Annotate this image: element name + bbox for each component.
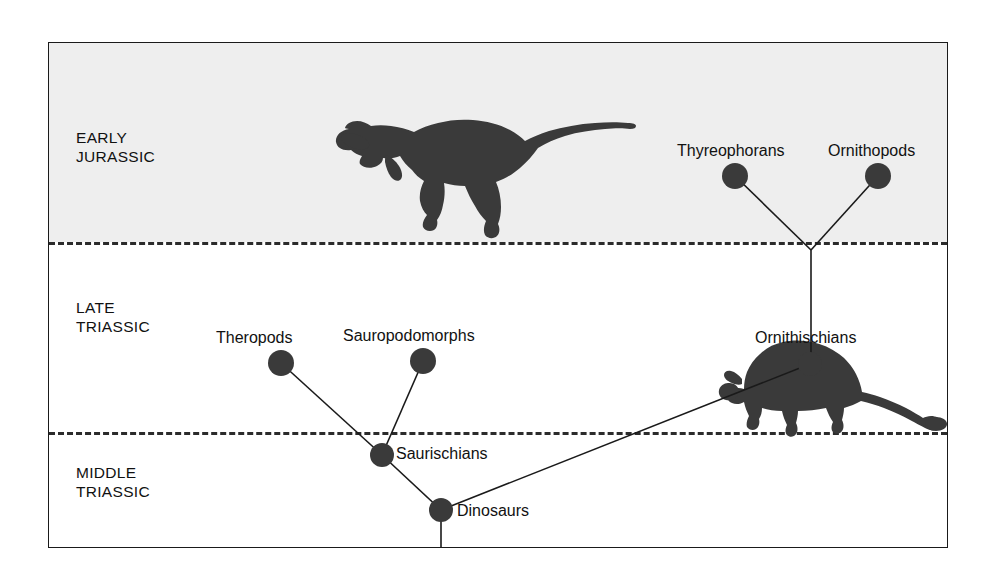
edge-ornithischians-dinosaurs xyxy=(441,364,810,510)
taxon-label-dinosaurs: Dinosaurs xyxy=(457,502,529,520)
taxon-label-ornithischians: Ornithischians xyxy=(755,329,856,347)
taxon-label-thyreophorans: Thyreophorans xyxy=(677,142,785,160)
node-theropods[interactable] xyxy=(268,350,294,376)
node-ornithischians[interactable] xyxy=(798,352,822,376)
diagram-page: EARLY JURASSIC LATE TRIASSIC MIDDLE TRIA… xyxy=(0,0,992,582)
taxon-label-sauropodomorphs: Sauropodomorphs xyxy=(343,327,475,345)
edge-sauropodomorphs-saurischians xyxy=(382,361,423,455)
node-sauropodomorphs[interactable] xyxy=(410,348,436,374)
edge-thyreophorans-split xyxy=(735,176,811,250)
cladogram-frame: EARLY JURASSIC LATE TRIASSIC MIDDLE TRIA… xyxy=(48,42,948,548)
taxon-label-theropods: Theropods xyxy=(216,329,293,347)
edge-ornithopods-split xyxy=(811,176,878,250)
cladogram-tree xyxy=(49,43,948,548)
taxon-label-saurischians: Saurischians xyxy=(396,445,488,463)
node-ornithopods[interactable] xyxy=(865,163,891,189)
node-saurischians[interactable] xyxy=(370,443,394,467)
node-dinosaurs[interactable] xyxy=(429,498,453,522)
taxon-label-ornithopods: Ornithopods xyxy=(828,142,915,160)
node-thyreophorans[interactable] xyxy=(722,163,748,189)
edge-saurischians-dinosaurs xyxy=(382,455,441,510)
edge-theropods-saurischians xyxy=(281,363,382,455)
